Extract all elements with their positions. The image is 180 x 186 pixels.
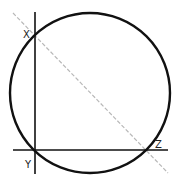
label-z: Z — [155, 139, 162, 150]
label-y: Y — [24, 159, 32, 170]
geometry-diagram: X Y Z — [0, 0, 180, 186]
diagonal-dashed-line — [13, 13, 168, 173]
label-x: X — [23, 29, 30, 40]
